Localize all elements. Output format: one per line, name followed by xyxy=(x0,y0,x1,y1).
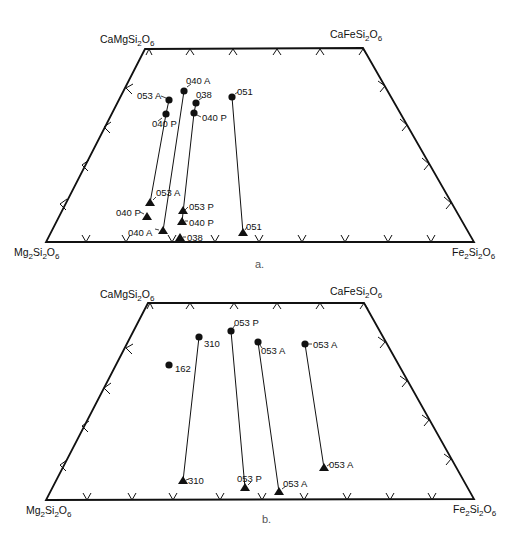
label-leaders-b xyxy=(186,325,330,489)
label-triangle-040P: 040 P xyxy=(116,207,141,218)
label-circle-053A-2: 053 A xyxy=(313,339,338,350)
right-edge-ticks-b xyxy=(378,337,451,465)
label-triangle-040A: 040 A xyxy=(128,227,153,238)
label-circle-053P: 053 P xyxy=(234,317,259,328)
label-circle-053A: 053 A xyxy=(137,90,162,101)
triangle-point-040A xyxy=(158,226,168,234)
pyroxene-quadrilateral-figure: CaMgSi2O6 CaFeSi2O6 Mg2Si2O6 Fe2Si2O6 xyxy=(0,0,519,543)
corner-label-mg2si2o6-b: Mg2Si2O6 xyxy=(26,504,72,519)
label-circle-053A-1: 053 A xyxy=(261,345,286,356)
label-triangle-053A: 053 A xyxy=(156,187,181,198)
top-edge-ticks-a xyxy=(146,49,367,55)
corner-label-mg2si2o6-a: Mg2Si2O6 xyxy=(14,246,60,261)
label-circle-040A: 040 A xyxy=(186,75,211,86)
label-triangle-053A-2: 053 A xyxy=(329,459,354,470)
circle-point-053A-2 xyxy=(301,340,308,347)
circle-point-038 xyxy=(192,99,199,106)
circle-point-053P xyxy=(227,327,234,334)
triangle-point-053A-2 xyxy=(319,463,329,471)
label-circle-051: 051 xyxy=(237,86,253,97)
label-triangle-310: 310 xyxy=(188,475,204,486)
label-circle-040P: 040 P xyxy=(152,118,177,129)
triangle-point-040P xyxy=(142,212,152,220)
label-leaders-a xyxy=(140,84,247,237)
label-triangle-053P: 053 P xyxy=(237,473,262,484)
corner-label-camgsi2o6-b: CaMgSi2O6 xyxy=(100,288,155,303)
left-edge-ticks-a xyxy=(60,84,133,210)
quadrilateral-outline-b xyxy=(46,303,474,500)
right-edge-ticks-a xyxy=(378,81,451,209)
corner-label-fe2si2o6-b: Fe2Si2O6 xyxy=(453,503,497,518)
circle-point-040A xyxy=(180,87,187,94)
circle-point-051 xyxy=(228,93,235,100)
label-triangle-038: 038 xyxy=(187,232,203,243)
quadrilateral-outline-a xyxy=(46,48,474,242)
circle-point-162 xyxy=(165,361,172,368)
label-triangle-053P: 053 P xyxy=(189,201,214,212)
corner-label-cafesi2o6-a: CaFeSi2O6 xyxy=(330,28,383,43)
label-triangle-053A-1: 053 A xyxy=(283,478,308,489)
panel-caption-b: b. xyxy=(262,513,271,525)
label-circle-038: 038 xyxy=(196,89,212,100)
label-circle-162: 162 xyxy=(175,363,191,374)
circle-point-040P xyxy=(162,110,169,117)
panel-b: CaMgSi2O6 CaFeSi2O6 Mg2Si2O6 Fe2Si2O6 xyxy=(26,285,497,525)
circle-point-040P-right xyxy=(190,109,197,116)
label-circle-040P-right: 040 P xyxy=(202,112,227,123)
tie-lines-b xyxy=(183,331,324,492)
label-circle-310: 310 xyxy=(204,338,220,349)
label-triangle-051: 051 xyxy=(246,221,262,232)
circle-point-053A xyxy=(165,96,172,103)
corner-label-cafesi2o6-b: CaFeSi2O6 xyxy=(330,285,383,300)
circle-point-310 xyxy=(195,333,202,340)
panel-a: CaMgSi2O6 CaFeSi2O6 Mg2Si2O6 Fe2Si2O6 xyxy=(14,28,496,270)
label-triangle-040P-right: 040 P xyxy=(189,217,214,228)
corner-label-camgsi2o6-a: CaMgSi2O6 xyxy=(100,33,155,48)
triangle-point-053P xyxy=(178,206,188,214)
panel-caption-a: a. xyxy=(255,258,264,270)
corner-label-fe2si2o6-a: Fe2Si2O6 xyxy=(452,246,496,261)
